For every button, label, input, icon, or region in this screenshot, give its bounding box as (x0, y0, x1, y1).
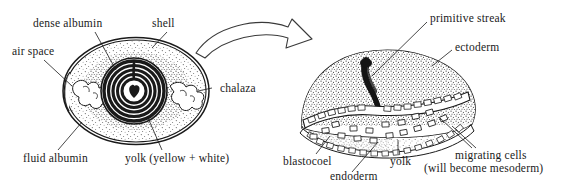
label-fluid-albumin: fluid albumin (23, 152, 88, 164)
label-endoderm: endoderm (330, 170, 378, 182)
transition-arrow (196, 19, 312, 58)
label-shell: shell (152, 17, 175, 29)
label-blastocoel: blastocoel (283, 155, 332, 167)
label-yolk-right: yolk (390, 155, 411, 167)
label-primitive-streak: primitive streak (430, 12, 506, 24)
figure-root: dense albumin shell air space chalaza fl… (0, 0, 565, 188)
label-air-space: air space (12, 45, 54, 57)
label-chalaza: chalaza (220, 82, 256, 94)
label-dense-albumin: dense albumin (33, 17, 102, 29)
yolk-region (101, 58, 167, 124)
label-yolk-left: yolk (yellow + white) (125, 152, 229, 164)
egg-cross-section-art (44, 32, 212, 150)
label-ectoderm: ectoderm (455, 41, 499, 53)
label-migrating-cells-note: (will become mesoderm) (424, 162, 543, 175)
label-migrating-cells: migrating cells (455, 149, 527, 162)
